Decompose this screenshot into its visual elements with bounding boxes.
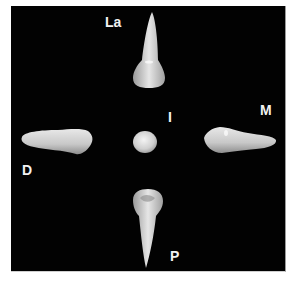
label-incisal: I	[168, 110, 172, 124]
label-distal: D	[22, 163, 32, 177]
tooth-views	[0, 0, 287, 281]
tooth-labial-view	[133, 12, 165, 88]
tooth-mesial-view	[204, 127, 276, 153]
tooth-palatal-view	[133, 189, 163, 268]
tooth-distal-view	[22, 129, 93, 154]
label-labial: La	[105, 15, 121, 29]
tooth-incisal-view	[133, 131, 157, 153]
label-mesial: M	[260, 103, 272, 117]
label-palatal: P	[170, 249, 179, 263]
